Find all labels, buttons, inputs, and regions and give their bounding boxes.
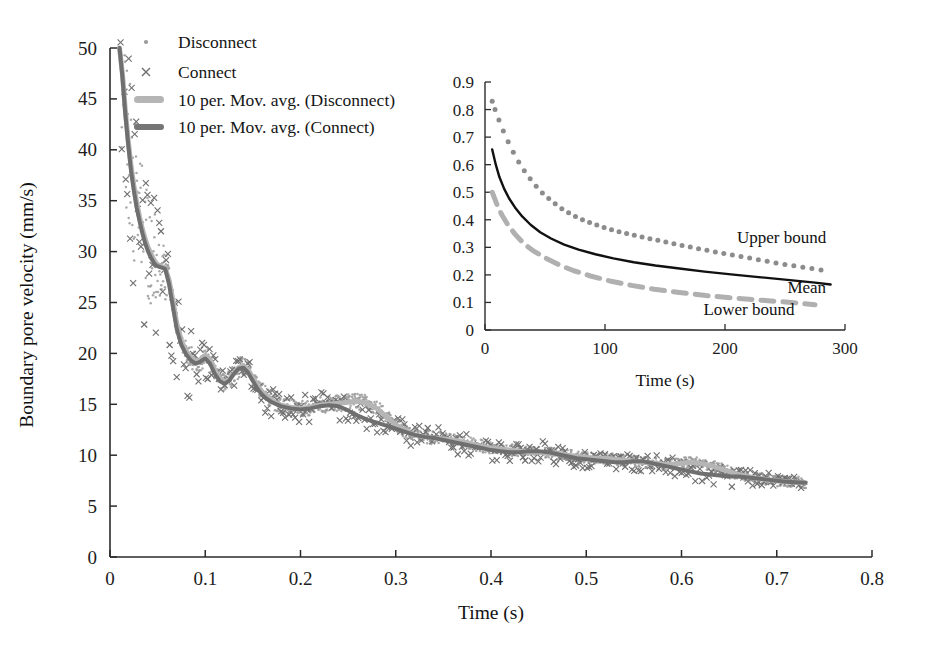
inset-x-tick-label: 0 [481,339,490,358]
main-x-tick-label: 0 [105,568,115,589]
inset-y-tick-label: 0.5 [453,183,474,202]
main-x-tick-label: 0.6 [670,568,694,589]
inset-y-tick-label: 0.6 [453,156,474,175]
inset-x-axis-title: Time (s) [635,370,694,390]
inset-y-tick-label: 0.4 [453,211,475,230]
main-y-axis-title: Boundary pore velocity (mm/s) [16,182,38,427]
inset-x-tick-label: 300 [832,339,858,358]
inset-y-tick-label: 0.3 [453,238,474,257]
main-y-tick-label: 15 [78,394,97,415]
inset-x-tick-label: 200 [712,339,738,358]
main-y-tick-label: 5 [88,496,98,517]
legend-label-disconnect: Disconnect [178,32,257,52]
annotation-upper-bound: Upper bound [737,228,827,247]
legend-label-mov-avg-connect: 10 per. Mov. avg. (Connect) [178,117,375,137]
dot-marker-icon [144,40,148,44]
inset-y-tick-label: 0.1 [453,293,474,312]
figure-root: 00.10.20.30.40.50.60.70.8051015202530354… [0,0,939,645]
main-x-tick-label: 0.1 [193,568,217,589]
main-y-tick-label: 45 [78,88,97,109]
inset-y-tick-label: 0.8 [453,101,474,120]
annotation-mean: Mean [787,278,826,297]
line-swatch-icon [134,96,164,103]
main-y-tick-label: 25 [78,292,97,313]
inset-x-tick-label: 100 [592,339,618,358]
main-y-tick-label: 20 [78,343,97,364]
main-y-tick-label: 35 [78,190,97,211]
main-x-tick-label: 0.3 [384,568,408,589]
main-x-tick-label: 0.4 [479,568,503,589]
legend-label-mov-avg-disconnect: 10 per. Mov. avg. (Disconnect) [178,90,395,110]
main-y-tick-label: 50 [78,38,97,59]
line-swatch-icon [134,124,164,130]
chart-canvas: 00.10.20.30.40.50.60.70.8051015202530354… [0,0,939,645]
inset-y-tick-label: 0.7 [453,128,475,147]
inset-y-tick-label: 0.9 [453,73,474,92]
main-x-tick-label: 0.8 [860,568,884,589]
main-x-axis-title: Time (s) [458,602,524,624]
inset-y-tick-label: 0.2 [453,266,474,285]
main-x-tick-label: 0.7 [765,568,789,589]
inset-y-tick-label: 0 [466,321,475,340]
main-y-tick-label: 40 [78,139,97,160]
main-y-tick-label: 0 [88,547,98,568]
main-x-tick-label: 0.2 [289,568,313,589]
main-y-tick-label: 30 [78,241,97,262]
main-x-tick-label: 0.5 [574,568,598,589]
legend-label-connect: Connect [178,62,236,82]
main-y-tick-label: 10 [78,445,97,466]
annotation-lower-bound: Lower bound [703,300,795,319]
